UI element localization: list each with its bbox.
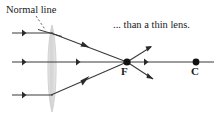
incoming-rays-group xyxy=(12,30,53,99)
normal-line-label: Normal line xyxy=(6,5,56,16)
upper-diverging-ray-arrow-icon xyxy=(146,46,153,52)
upper-refracted-ray xyxy=(51,33,127,62)
lower-refracted-ray xyxy=(51,62,127,95)
axial-diverging-ray-arrow-icon xyxy=(144,59,149,66)
axial-refracted-ray-arrow-icon xyxy=(76,59,81,66)
lower-incoming-ray-arrow-icon xyxy=(22,92,27,99)
refracted-rays-group xyxy=(51,33,127,95)
diagram-caption: ... than a thin lens. xyxy=(113,20,190,31)
center-point-label: C xyxy=(191,66,199,77)
lower-refracted-ray-arrow-icon xyxy=(81,76,90,86)
upper-refracted-ray-arrow-icon xyxy=(81,42,90,48)
normal-line-leader xyxy=(36,16,46,30)
upper-incoming-ray-arrow-icon xyxy=(22,30,27,37)
lower-diverging-ray-arrow-icon xyxy=(147,73,154,79)
axial-incoming-ray-arrow-icon xyxy=(22,59,27,66)
lens-shape xyxy=(48,25,56,112)
optics-ray-diagram-figure: Normal line ... than a thin lens. F C xyxy=(0,0,218,115)
focal-point-label: F xyxy=(121,66,128,77)
ray-diagram-canvas xyxy=(0,0,218,115)
